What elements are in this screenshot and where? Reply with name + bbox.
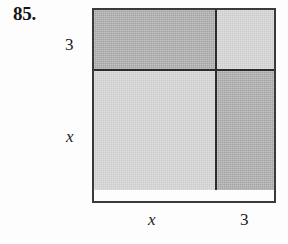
area-cell-top-right (217, 10, 274, 71)
area-model-square (92, 8, 276, 203)
label-left-height-3: 3 (65, 36, 74, 53)
problem-number: 85. (13, 4, 36, 23)
label-left-height-x: x (66, 128, 74, 145)
figure-container: 85. 3 x x 3 (0, 0, 288, 244)
area-cell-top-left (94, 10, 217, 71)
label-bottom-width-x: x (148, 211, 156, 228)
area-cell-bottom-right (217, 71, 274, 190)
label-bottom-width-3: 3 (240, 211, 249, 228)
area-cell-bottom-left (94, 71, 217, 190)
